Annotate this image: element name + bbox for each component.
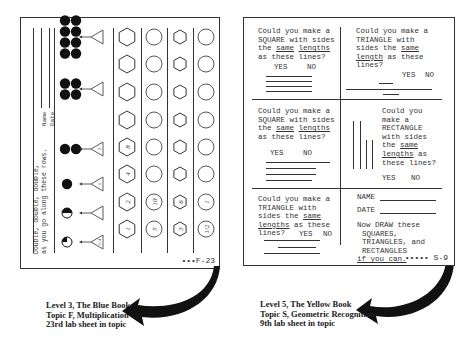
question-square-2: Could you make a SQUARE with sides the s… xyxy=(258,107,335,141)
sample-line xyxy=(278,247,316,248)
yes-option[interactable]: YES xyxy=(274,63,288,72)
name-field[interactable] xyxy=(380,200,436,201)
grid-divider xyxy=(252,188,442,189)
no-option[interactable]: NO xyxy=(425,71,434,80)
sample-line xyxy=(264,253,320,254)
question-square-1: Could you make a SQUARE with sides the s… xyxy=(258,27,335,61)
sample-line xyxy=(346,89,432,90)
yes-option[interactable]: YES xyxy=(402,71,416,80)
right-caption: Level 5, The Yellow Book Topic S, Geomet… xyxy=(260,300,375,329)
sample-line xyxy=(353,121,354,169)
date-label: DATE xyxy=(357,206,375,215)
geometric-recognition-lab-sheet: Could you make a SQUARE with sides the s… xyxy=(243,17,455,266)
sample-line xyxy=(266,168,316,169)
grid-divider xyxy=(340,27,341,245)
sample-line xyxy=(383,94,399,95)
sample-line xyxy=(266,180,312,181)
date-field[interactable] xyxy=(380,213,436,214)
question-rectangle: Could you make a RECTANGLE with sides th… xyxy=(382,107,436,167)
question-triangle-2: Could you make a TRIANGLE with sides the… xyxy=(258,195,330,238)
no-option[interactable]: NO xyxy=(307,63,316,72)
caption-line: 9th lab sheet in topic xyxy=(260,319,375,329)
sample-line xyxy=(266,76,312,77)
sample-line xyxy=(266,86,312,87)
sample-line xyxy=(360,121,361,169)
page-code: ••••• S-9 xyxy=(405,253,448,262)
name-label: NAME xyxy=(357,193,375,202)
sample-line xyxy=(366,140,367,169)
no-option[interactable]: NO xyxy=(323,230,332,239)
sample-line xyxy=(266,81,312,82)
sample-line xyxy=(264,240,320,241)
sample-line xyxy=(266,162,330,163)
question-triangle-1: Could you make a TRIANGLE with sides the… xyxy=(356,27,428,70)
no-option[interactable]: NO xyxy=(303,149,312,158)
grid-divider xyxy=(252,99,442,100)
no-option[interactable]: NO xyxy=(411,174,420,183)
sample-line xyxy=(372,140,373,169)
yes-option[interactable]: YES xyxy=(382,174,396,183)
yes-option[interactable]: YES xyxy=(270,149,284,158)
sample-line xyxy=(266,91,312,92)
curved-arrow-icon xyxy=(122,266,220,326)
yes-option[interactable]: YES xyxy=(299,230,313,239)
sample-line xyxy=(266,174,316,175)
sample-line xyxy=(379,83,393,84)
